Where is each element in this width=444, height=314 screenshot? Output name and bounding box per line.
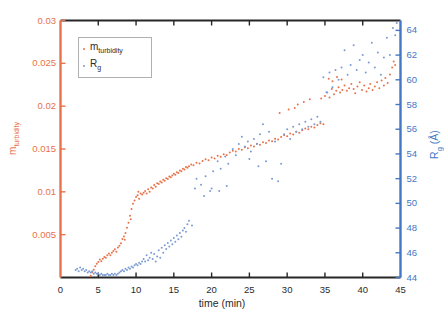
data-point-m-turbidity: [339, 91, 341, 93]
data-point-rg: [141, 260, 143, 262]
data-point-m-turbidity: [253, 145, 255, 147]
data-point-rg: [374, 66, 376, 68]
data-point-m-turbidity: [303, 101, 305, 103]
data-point-rg: [159, 257, 161, 259]
data-point-m-turbidity: [106, 254, 108, 256]
data-point-m-turbidity: [130, 218, 132, 220]
data-point-m-turbidity: [117, 247, 119, 249]
y-tick-label-right: 48: [407, 222, 418, 233]
data-point-m-turbidity: [235, 151, 237, 153]
y-tick-label-right: 46: [407, 247, 418, 258]
data-point-m-turbidity: [188, 165, 190, 167]
data-point-m-turbidity: [96, 263, 98, 265]
data-point-rg: [156, 256, 158, 258]
data-point-m-turbidity: [132, 203, 134, 205]
data-point-m-turbidity: [147, 188, 149, 190]
y-tick-label-left: 0.025: [2, 57, 56, 68]
data-point-m-turbidity: [111, 252, 113, 254]
data-point-rg: [179, 232, 181, 234]
data-point-m-turbidity: [376, 81, 378, 83]
data-point-m-turbidity: [320, 97, 322, 99]
data-point-m-turbidity: [394, 64, 396, 66]
data-point-rg: [212, 170, 214, 172]
data-point-rg: [338, 79, 340, 81]
data-point-rg: [132, 267, 134, 269]
data-point-m-turbidity: [229, 151, 231, 153]
data-point-m-turbidity: [381, 79, 383, 81]
y-tick-label-left: 0.03: [2, 15, 56, 26]
data-point-m-turbidity: [356, 85, 358, 87]
data-point-m-turbidity: [100, 260, 102, 262]
data-point-m-turbidity: [109, 254, 111, 256]
data-point-m-turbidity: [274, 138, 276, 140]
data-point-rg: [79, 267, 81, 269]
data-point-m-turbidity: [262, 141, 264, 143]
data-point-rg: [257, 165, 259, 167]
data-point-m-turbidity: [259, 144, 261, 146]
data-point-rg: [185, 231, 187, 233]
data-point-rg: [155, 260, 157, 262]
data-point-m-turbidity: [102, 258, 104, 260]
y-tick-label-right: 62: [407, 49, 418, 60]
data-point-rg: [147, 259, 149, 261]
data-point-m-turbidity: [324, 95, 326, 97]
data-point-rg: [137, 264, 139, 266]
data-point-rg: [194, 188, 196, 190]
data-point-m-turbidity: [138, 198, 140, 200]
data-point-rg: [298, 123, 300, 125]
data-point-m-turbidity: [167, 178, 169, 180]
data-point-rg: [227, 163, 229, 165]
data-point-rg: [203, 195, 205, 197]
x-tick-label: 30: [273, 284, 301, 295]
data-point-rg: [259, 133, 261, 135]
data-point-rg: [394, 34, 396, 36]
data-point-m-turbidity: [114, 248, 116, 250]
data-point-rg: [220, 168, 222, 170]
data-point-rg: [191, 225, 193, 227]
scatter-chart-figure: mturbidity Rg 0510152025303540450.0050.0…: [0, 0, 444, 314]
data-point-m-turbidity: [186, 167, 188, 169]
data-point-m-turbidity: [214, 157, 216, 159]
data-point-m-turbidity: [313, 127, 315, 129]
data-point-rg: [218, 190, 220, 192]
data-point-m-turbidity: [363, 85, 365, 87]
data-point-rg: [168, 246, 170, 248]
data-point-m-turbidity: [310, 126, 312, 128]
data-point-m-turbidity: [332, 80, 334, 82]
data-point-m-turbidity: [292, 133, 294, 135]
data-point-m-turbidity: [279, 112, 281, 114]
data-point-rg: [205, 175, 207, 177]
y-tick-label-right: 56: [407, 123, 418, 134]
y-tick-label-right: 54: [407, 148, 418, 159]
y-tick-label-left: 0.005: [2, 229, 56, 240]
data-point-m-turbidity: [170, 176, 172, 178]
data-point-m-turbidity: [361, 89, 363, 91]
data-point-m-turbidity: [368, 87, 370, 89]
data-point-m-turbidity: [164, 180, 166, 182]
data-point-rg: [91, 270, 93, 272]
data-point-rg: [356, 69, 358, 71]
data-point-m-turbidity: [146, 193, 148, 195]
data-point-m-turbidity: [131, 208, 133, 210]
data-point-m-turbidity: [141, 193, 143, 195]
data-point-m-turbidity: [298, 132, 300, 134]
data-point-rg: [143, 258, 145, 260]
data-point-m-turbidity: [134, 199, 136, 201]
data-point-rg: [238, 143, 240, 145]
data-point-m-turbidity: [153, 184, 155, 186]
data-point-rg: [129, 268, 131, 270]
data-point-rg: [126, 269, 128, 271]
data-point-rg: [250, 150, 252, 152]
data-point-rg: [183, 227, 185, 229]
data-point-rg: [162, 252, 164, 254]
data-point-rg: [82, 268, 84, 270]
data-point-m-turbidity: [202, 160, 204, 162]
data-point-rg: [150, 252, 152, 254]
data-point-rg: [200, 184, 202, 186]
y-tick-label-right: 50: [407, 197, 418, 208]
data-point-m-turbidity: [289, 133, 291, 135]
data-point-m-turbidity: [192, 164, 194, 166]
legend-label-m-turbidity: mturbidity: [90, 41, 123, 54]
data-point-m-turbidity: [304, 127, 306, 129]
data-point-rg: [123, 270, 125, 272]
